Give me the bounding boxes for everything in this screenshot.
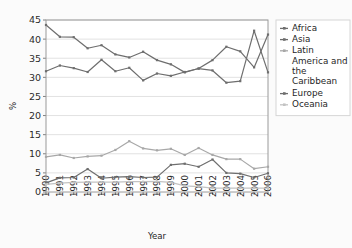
series-point-2-1992 (73, 157, 75, 159)
xtick-label-2002: 2002 (208, 175, 218, 197)
series-point-2-2002 (211, 154, 213, 156)
line-chart: 0510152025303540451990199119921993199419… (0, 0, 352, 248)
series-point-4-1995 (114, 181, 116, 183)
series-point-3-2006 (267, 172, 269, 174)
series-point-0-1993 (87, 47, 89, 49)
series-point-3-2004 (239, 173, 241, 175)
series-point-1-1990 (45, 70, 47, 72)
series-point-0-1996 (128, 56, 130, 58)
series-point-2-2003 (225, 158, 227, 160)
legend-label-africa: Africa (292, 23, 317, 33)
xtick-label-1999: 1999 (166, 175, 176, 197)
series-point-3-1998 (156, 176, 158, 178)
series-point-2-2006 (267, 166, 269, 168)
series-point-2-2005 (253, 168, 255, 170)
legend-label-asia: Asia (292, 34, 310, 44)
series-point-1-1994 (100, 59, 102, 61)
series-point-0-1994 (100, 44, 102, 46)
series-point-4-2001 (198, 186, 200, 188)
series-point-3-2005 (253, 176, 255, 178)
series-point-3-1993 (87, 168, 89, 170)
series-point-0-1998 (156, 59, 158, 61)
series-point-1-1992 (73, 67, 75, 69)
series-point-4-1991 (59, 182, 61, 184)
series-point-2-1990 (45, 156, 47, 158)
series-point-0-1999 (170, 63, 172, 65)
ytick-label-15: 15 (29, 129, 41, 140)
series-point-0-1992 (73, 36, 75, 38)
series-point-3-2000 (184, 163, 186, 165)
series-point-3-1991 (59, 177, 61, 179)
series-point-4-1996 (128, 181, 130, 183)
series-point-0-2002 (211, 69, 213, 71)
series-point-3-1992 (73, 176, 75, 178)
series-point-2-2004 (239, 158, 241, 160)
series-point-1-2001 (198, 67, 200, 69)
series-point-4-1997 (142, 181, 144, 183)
series-point-0-2004 (239, 80, 241, 82)
legend-label-latin-america-and-the-caribbean: Caribbean (292, 76, 337, 86)
series-point-0-2003 (225, 82, 227, 84)
legend-marker-point (283, 49, 286, 52)
series-point-4-2006 (267, 187, 269, 189)
series-point-0-2005 (253, 30, 255, 32)
ytick-label-5: 5 (35, 167, 41, 178)
xtick-label-1995: 1995 (111, 175, 121, 197)
legend-marker-point (283, 38, 286, 41)
series-point-4-1999 (170, 181, 172, 183)
series-point-4-2003 (225, 187, 227, 189)
series-point-4-1994 (100, 181, 102, 183)
series-point-2-1993 (87, 155, 89, 157)
series-point-3-1996 (128, 176, 130, 178)
series-point-1-2006 (267, 33, 269, 35)
legend-marker-point (283, 27, 286, 30)
series-point-4-2004 (239, 187, 241, 189)
series-point-4-2005 (253, 187, 255, 189)
ytick-label-25: 25 (29, 91, 41, 102)
legend-label-latin-america-and-the-caribbean: Latin (292, 45, 314, 55)
ytick-label-10: 10 (29, 148, 41, 159)
legend-label-europe: Europe (292, 88, 323, 98)
series-point-1-1991 (59, 64, 61, 66)
series-point-3-1999 (170, 164, 172, 166)
series-point-2-1995 (114, 149, 116, 151)
series-point-3-2002 (211, 158, 213, 160)
legend-marker-point (283, 103, 286, 106)
series-point-4-2000 (184, 185, 186, 187)
ytick-label-45: 45 (29, 14, 41, 25)
series-point-2-1996 (128, 140, 130, 142)
series-point-2-1998 (156, 149, 158, 151)
series-point-2-2000 (184, 154, 186, 156)
series-point-3-1995 (114, 176, 116, 178)
series-point-1-2004 (239, 50, 241, 52)
legend-marker-point (283, 92, 286, 95)
series-point-0-2006 (267, 71, 269, 73)
series-point-1-2003 (225, 46, 227, 48)
xtick-label-1998: 1998 (152, 175, 162, 197)
ytick-label-20: 20 (29, 110, 41, 121)
series-point-4-1998 (156, 180, 158, 182)
ytick-label-0: 0 (35, 186, 41, 197)
series-point-4-1992 (73, 181, 75, 183)
series-point-1-1999 (170, 75, 172, 77)
series-point-3-2003 (225, 172, 227, 174)
y-axis-title: % (8, 102, 18, 110)
series-point-2-1991 (59, 154, 61, 156)
series-point-1-1996 (128, 67, 130, 69)
series-point-0-1990 (45, 24, 47, 26)
ytick-label-30: 30 (29, 72, 41, 83)
series-point-1-2005 (253, 66, 255, 68)
series-point-3-1997 (142, 176, 144, 178)
series-point-1-2002 (211, 59, 213, 61)
series-point-0-1991 (59, 36, 61, 38)
series-point-1-1997 (142, 79, 144, 81)
xtick-label-2004: 2004 (236, 175, 246, 197)
series-point-2-1999 (170, 148, 172, 150)
series-point-4-1990 (45, 183, 47, 185)
x-axis-title: Year (147, 231, 167, 241)
xtick-label-1993: 1993 (83, 175, 93, 197)
chart-figure: 0510152025303540451990199119921993199419… (0, 0, 352, 248)
xtick-label-1996: 1996 (125, 175, 135, 197)
series-point-0-1997 (142, 51, 144, 53)
legend-label-oceania: Oceania (292, 99, 328, 109)
